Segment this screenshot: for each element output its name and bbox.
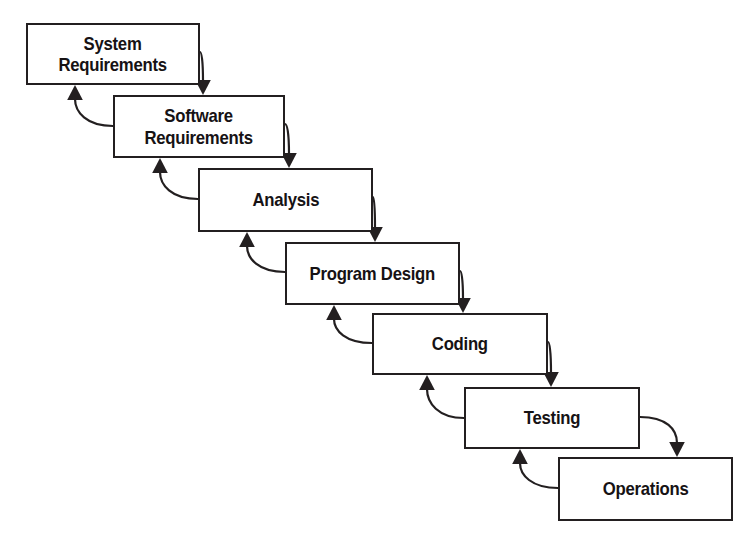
- feedback-arrow-software-requirements-to-system-requirements: [75, 99, 113, 126]
- forward-arrow-system-requirements-to-software-requirements: [200, 52, 203, 81]
- forward-arrow-analysis-to-program-design: [373, 197, 375, 228]
- phase-box-software-requirements[interactable]: Software Requirements: [113, 95, 285, 158]
- feedback-arrowhead-analysis: [239, 232, 255, 247]
- phase-label-analysis: Analysis: [249, 189, 323, 210]
- phase-box-testing[interactable]: Testing: [464, 387, 640, 449]
- feedback-arrowhead-coding: [419, 375, 435, 390]
- phase-label-system-requirements: System Requirements: [55, 33, 170, 76]
- feedback-arrow-program-design-to-analysis: [247, 246, 285, 272]
- feedback-arrow-analysis-to-software-requirements: [160, 172, 198, 199]
- phase-label-software-requirements: Software Requirements: [141, 105, 256, 148]
- phase-label-operations: Operations: [599, 478, 692, 499]
- feedback-arrowhead-system-requirements: [67, 85, 83, 100]
- forward-arrow-coding-to-testing: [548, 342, 551, 373]
- phase-box-program-design[interactable]: Program Design: [285, 242, 460, 305]
- phase-box-operations[interactable]: Operations: [558, 457, 733, 521]
- feedback-arrow-operations-to-testing: [520, 463, 558, 488]
- forward-arrow-testing-to-operations: [640, 417, 677, 443]
- waterfall-diagram: System RequirementsSoftware Requirements…: [0, 0, 753, 543]
- phase-box-coding[interactable]: Coding: [372, 313, 548, 375]
- forward-arrow-program-design-to-coding: [460, 271, 463, 299]
- phase-label-coding: Coding: [428, 333, 491, 354]
- forward-arrowhead-operations: [669, 442, 685, 457]
- feedback-arrowhead-testing: [512, 449, 528, 464]
- forward-arrow-software-requirements-to-analysis: [285, 124, 289, 154]
- phase-label-program-design: Program Design: [306, 263, 438, 284]
- feedback-arrow-testing-to-coding: [427, 389, 464, 418]
- feedback-arrow-coding-to-program-design: [334, 319, 372, 343]
- phase-box-analysis[interactable]: Analysis: [198, 168, 373, 232]
- phase-box-system-requirements[interactable]: System Requirements: [26, 23, 200, 85]
- feedback-arrowhead-software-requirements: [152, 158, 168, 173]
- feedback-arrowhead-program-design: [326, 305, 342, 320]
- phase-label-testing: Testing: [520, 407, 583, 428]
